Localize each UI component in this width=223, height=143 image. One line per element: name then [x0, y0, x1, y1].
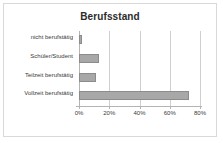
bar-row [76, 69, 201, 88]
bar-row [76, 50, 201, 69]
x-tick-mark [140, 106, 141, 109]
bar [79, 54, 99, 63]
chart-title: Berufsstand [4, 11, 216, 22]
bar [79, 73, 96, 82]
x-tick-mark [170, 106, 171, 109]
x-tick-label: 0% [64, 110, 94, 116]
category-label: Schüler/Student [5, 53, 73, 59]
bar-row [76, 31, 201, 50]
category-label: Vollzeit berufstätig [5, 90, 73, 96]
x-tick-mark [200, 106, 201, 109]
category-label: nicht berufstätig [5, 34, 73, 40]
bar [79, 35, 82, 44]
x-tick-label: 60% [155, 110, 185, 116]
x-tick-label: 80% [185, 110, 215, 116]
bar-row [76, 87, 201, 106]
x-tick-mark [79, 106, 80, 109]
category-label: Teilzeit berufstätig [5, 72, 73, 78]
plot-area [76, 31, 201, 106]
x-tick-label: 20% [94, 110, 124, 116]
chart-frame: Berufsstand nicht berufstätig Schüler/St… [3, 3, 217, 137]
bar [79, 91, 189, 100]
x-tick-mark [109, 106, 110, 109]
x-tick-label: 40% [125, 110, 155, 116]
category-axis-labels: nicht berufstätig Schüler/Student Teilze… [4, 31, 73, 106]
